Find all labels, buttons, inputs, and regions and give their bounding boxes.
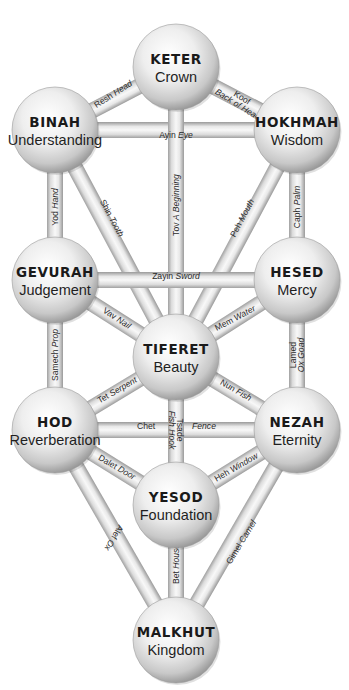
sphere-name: KETER [150, 51, 202, 67]
path-label-heh: Heh Window [212, 450, 260, 483]
svg-text:Ox Goad: Ox Goad [296, 338, 306, 373]
sphere-ball [12, 387, 98, 473]
svg-text:Heh Window: Heh Window [212, 450, 260, 483]
sphere-gevurah: GEVURAHJudgement [12, 237, 100, 325]
sphere-name: BINAH [29, 114, 80, 130]
svg-text:Chet: Chet [137, 421, 156, 431]
sphere-name: MALKHUT [137, 624, 216, 640]
sphere-meaning: Understanding [8, 132, 102, 148]
sphere-ball [254, 387, 340, 473]
sphere-ball [254, 87, 340, 173]
sphere-keter: KETERCrown [133, 24, 221, 112]
sphere-ball [254, 237, 340, 323]
svg-text:Fish Hook: Fish Hook [167, 411, 177, 450]
sphere-ball [12, 237, 98, 323]
path-label-ayin: Ayin Eye [159, 130, 193, 140]
sphere-ball [12, 87, 98, 173]
svg-text:Ayin Eye: Ayin Eye [159, 130, 193, 140]
sphere-meaning: Judgement [19, 282, 91, 298]
sphere-ball [133, 462, 219, 548]
sphere-name: YESOD [148, 489, 203, 505]
path-label-lamed: LamedOx Goad [288, 338, 306, 373]
svg-text:Tov A Beginning: Tov A Beginning [171, 174, 181, 236]
sphere-binah: BINAHUnderstanding [8, 87, 102, 175]
path-label-caph: Caph Palm [292, 186, 302, 229]
sphere-meaning: Eternity [272, 432, 322, 448]
svg-text:Caph Palm: Caph Palm [292, 186, 302, 229]
sphere-meaning: Foundation [140, 507, 213, 523]
sphere-nezah: NEZAHEternity [254, 387, 342, 475]
sphere-name: HOKHMAH [255, 114, 339, 130]
sphere-ball [133, 24, 219, 110]
sphere-name: HESED [270, 264, 324, 280]
svg-text:Zayin Sword: Zayin Sword [152, 271, 200, 281]
sphere-tiferet: TIFERETBeauty [133, 314, 221, 402]
sphere-meaning: Crown [155, 69, 197, 85]
sphere-malkhut: MALKHUTKingdom [133, 597, 221, 685]
sphere-meaning: Wisdom [271, 132, 323, 148]
sphere-meaning: Beauty [153, 359, 199, 375]
sphere-meaning: Reverberation [9, 432, 100, 448]
sphere-meaning: Mercy [277, 282, 317, 298]
svg-text:Yod Hand: Yod Hand [50, 188, 60, 226]
sphere-name: HOD [37, 414, 73, 430]
sphere-yesod: YESODFoundation [133, 462, 221, 550]
sphere-ball [133, 597, 219, 683]
path-label-samech: Samech Prop [50, 329, 60, 381]
tree-of-life-diagram: Resh HeadKoofBack of HeadAyin EyeTov A B… [0, 0, 349, 690]
sphere-hod: HODReverberation [9, 387, 100, 475]
path-label-tov: Tov A Beginning [171, 174, 181, 236]
sphere-name: NEZAH [269, 414, 324, 430]
svg-text:Samech Prop: Samech Prop [50, 329, 60, 381]
svg-text:Fence: Fence [192, 421, 216, 431]
sphere-name: GEVURAH [16, 264, 94, 280]
sphere-hokhmah: HOKHMAHWisdom [254, 87, 342, 175]
path-label-zayin: Zayin Sword [152, 271, 200, 281]
path-label-yod: Yod Hand [50, 188, 60, 226]
sphere-meaning: Kingdom [147, 642, 204, 658]
sphere-name: TIFERET [143, 341, 209, 357]
sphere-ball [133, 314, 219, 400]
sphere-hesed: HESEDMercy [254, 237, 342, 325]
